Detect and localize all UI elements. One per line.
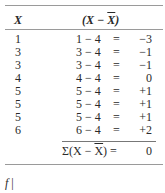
sum-label: Σ(X − X) = bbox=[62, 145, 117, 158]
table-body: 11 − 4=−3 33 − 4=−1 33 − 4=−1 44 − 4=0 5… bbox=[0, 33, 165, 137]
cell-expr: 6 − 4 bbox=[76, 124, 101, 137]
sum-result: 0 bbox=[124, 145, 152, 158]
footer-bar: | bbox=[11, 176, 13, 190]
header-dev-suffix: ) bbox=[115, 13, 119, 27]
cell-x: 6 bbox=[15, 124, 21, 137]
table-bottom-rule bbox=[5, 164, 163, 165]
header-rule bbox=[5, 29, 163, 30]
footer-text: f bbox=[5, 176, 8, 190]
table-top-rule bbox=[5, 5, 163, 6]
footer-fragment: f| bbox=[5, 176, 14, 191]
cell-eq: = bbox=[113, 124, 120, 137]
table-row: 66 − 4=+2 bbox=[0, 124, 165, 137]
column-header-deviation: (X − X) bbox=[82, 13, 119, 28]
sum-rule bbox=[62, 141, 156, 142]
column-header-x: X bbox=[14, 13, 22, 28]
sum-mean: X bbox=[94, 144, 103, 158]
cell-result: +2 bbox=[124, 124, 152, 137]
sum-prefix: Σ(X − bbox=[62, 144, 94, 158]
header-dev-prefix: (X − bbox=[82, 13, 107, 27]
sum-suffix: ) = bbox=[103, 144, 117, 158]
